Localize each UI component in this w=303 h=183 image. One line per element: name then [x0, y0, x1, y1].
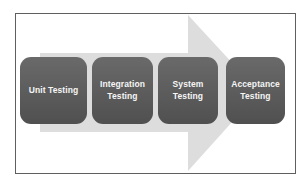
stage-box-unit-testing: Unit Testing — [20, 57, 87, 124]
stage-box-integration-testing: Integration Testing — [92, 57, 153, 124]
stage-box-acceptance-testing: Acceptance Testing — [226, 57, 285, 124]
stage-box-system-testing: System Testing — [158, 57, 218, 124]
stage-label: Unit Testing — [29, 85, 79, 96]
stage-label: Integration Testing — [95, 79, 150, 101]
stage-label: Acceptance Testing — [229, 79, 282, 101]
diagram-frame: Unit Testing Integration Testing System … — [15, 13, 296, 174]
diagram-canvas: Unit Testing Integration Testing System … — [0, 0, 303, 183]
stage-label: System Testing — [161, 79, 215, 101]
